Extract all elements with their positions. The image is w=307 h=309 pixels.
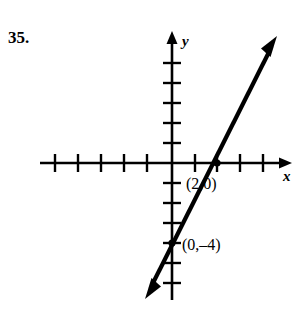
line-arrowhead-lower — [145, 278, 161, 299]
coordinate-plane: y x (2,0) (0,–4) — [0, 0, 307, 309]
y-axis-arrowhead — [167, 31, 178, 44]
x-axis-label: x — [282, 168, 291, 184]
graph-figure: 35. — [0, 0, 307, 309]
point-marker-x-intercept — [213, 159, 220, 166]
y-axis-label: y — [180, 33, 189, 49]
line-arrowhead-upper — [261, 36, 277, 57]
label-x-intercept: (2,0) — [186, 175, 217, 193]
x-axis-arrowhead — [279, 158, 292, 169]
point-marker-y-intercept — [168, 239, 175, 246]
label-y-intercept: (0,–4) — [182, 236, 221, 254]
